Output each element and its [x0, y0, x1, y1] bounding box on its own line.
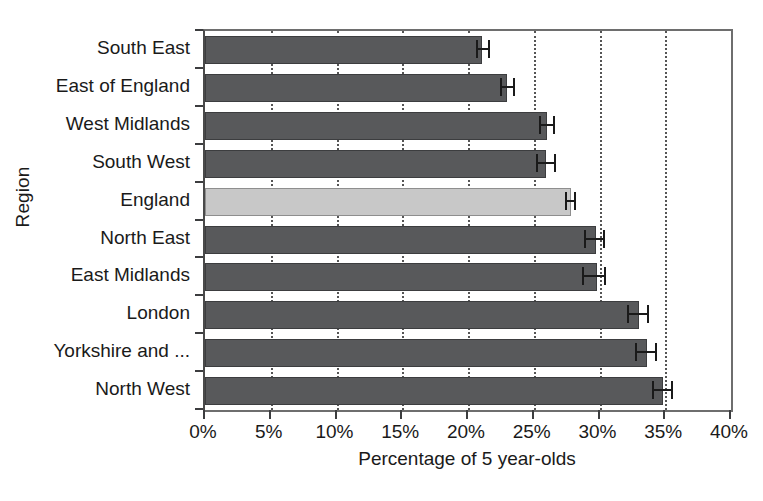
error-bar-line [582, 275, 606, 277]
x-tick-label-30: 30% [568, 421, 628, 443]
error-bar-cap-low [476, 40, 478, 58]
bar[interactable] [205, 36, 482, 64]
bar-row[interactable] [205, 69, 731, 107]
x-tick-label-10: 10% [305, 421, 365, 443]
x-axis-title: Percentage of 5 year-olds [203, 448, 731, 470]
error-bar-cap-high [553, 116, 555, 134]
bar[interactable] [205, 263, 597, 291]
y-axis-label-north-west: North West [95, 370, 190, 408]
y-axis-label-london: London [127, 294, 190, 332]
bar[interactable] [205, 74, 507, 102]
error-bar-cap-low [582, 267, 584, 285]
bar-row[interactable] [205, 221, 731, 259]
x-tick-mark-35 [663, 410, 665, 419]
error-bar-cap-high [554, 154, 556, 172]
bar-row[interactable] [205, 334, 731, 372]
error-bar-cap-low [500, 78, 502, 96]
x-axis-ticks: 0%5%10%15%20%25%30%35%40% [203, 410, 731, 440]
x-tick-mark-30 [598, 410, 600, 419]
error-bar-line [627, 313, 649, 315]
error-bar-cap-high [603, 230, 605, 248]
error-bar-cap-low [539, 116, 541, 134]
error-bar-cap-high [671, 381, 673, 399]
error-bar-cap-low [584, 230, 586, 248]
y-axis-label-east-midlands: East Midlands [71, 256, 190, 294]
y-axis-label-yorkshire-and: Yorkshire and ... [53, 332, 190, 370]
error-bar-cap-high [647, 305, 649, 323]
plot-area [203, 29, 733, 412]
y-axis-category-labels: South EastEast of EnglandWest MidlandsSo… [0, 29, 196, 408]
bar[interactable] [205, 226, 596, 254]
y-axis-label-england: England [120, 181, 190, 219]
error-bar-line [584, 238, 605, 240]
y-axis-label-north-east: North East [100, 219, 190, 257]
error-bar-cap-high [488, 40, 490, 58]
x-tick-label-15: 15% [370, 421, 430, 443]
x-tick-label-25: 25% [502, 421, 562, 443]
error-bar-cap-high [574, 192, 576, 210]
x-tick-mark-20 [466, 410, 468, 419]
x-tick-mark-25 [532, 410, 534, 419]
bar[interactable] [205, 112, 547, 140]
bar-row[interactable] [205, 31, 731, 69]
bar[interactable] [205, 339, 647, 367]
error-bar-cap-low [627, 305, 629, 323]
y-axis-label-south-west: South West [92, 143, 190, 181]
error-bar-line [635, 351, 657, 353]
x-tick-label-35: 35% [633, 421, 693, 443]
x-tick-mark-5 [269, 410, 271, 419]
bar-row[interactable] [205, 183, 731, 221]
bar[interactable] [205, 188, 571, 216]
error-bar-cap-high [513, 78, 515, 96]
plot-inner [205, 31, 731, 410]
x-tick-label-5: 5% [239, 421, 299, 443]
bar-chart: Region South EastEast of EnglandWest Mid… [0, 0, 763, 501]
error-bar-cap-low [635, 343, 637, 361]
error-bar-cap-low [565, 192, 567, 210]
bar-row[interactable] [205, 296, 731, 334]
error-bar-cap-high [604, 267, 606, 285]
bar[interactable] [205, 150, 546, 178]
bar-row[interactable] [205, 107, 731, 145]
y-axis-label-east-of-england: East of England [56, 67, 190, 105]
bar-row[interactable] [205, 145, 731, 183]
x-tick-label-0: 0% [173, 421, 233, 443]
x-tick-mark-40 [729, 410, 731, 419]
error-bar-line [652, 389, 673, 391]
bar-row[interactable] [205, 372, 731, 410]
error-bar-cap-low [536, 154, 538, 172]
bar-row[interactable] [205, 258, 731, 296]
x-tick-label-40: 40% [699, 421, 759, 443]
x-tick-mark-10 [335, 410, 337, 419]
x-tick-mark-0 [203, 410, 205, 419]
bar[interactable] [205, 301, 639, 329]
x-tick-label-20: 20% [436, 421, 496, 443]
x-tick-mark-15 [400, 410, 402, 419]
y-axis-label-south-east: South East [97, 29, 190, 67]
error-bar-cap-low [652, 381, 654, 399]
bar[interactable] [205, 377, 663, 405]
y-axis-label-west-midlands: West Midlands [66, 105, 190, 143]
error-bar-cap-high [655, 343, 657, 361]
